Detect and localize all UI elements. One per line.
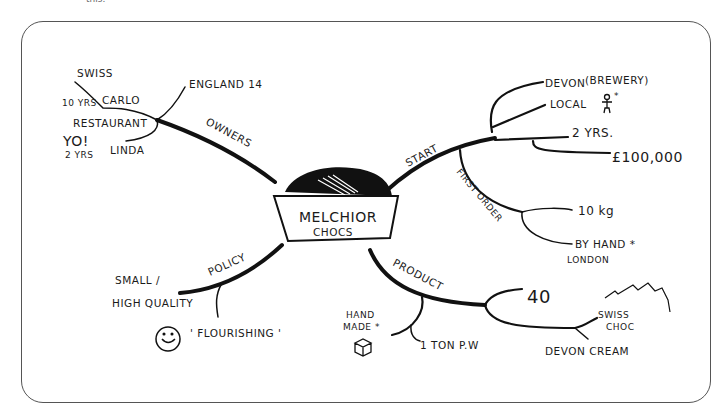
node-1-ton: 1 TON P.W <box>420 339 479 351</box>
node-40: 40 <box>527 286 551 307</box>
node-high-quality: HIGH QUALITY <box>112 297 193 309</box>
node-swiss-choc-1: SWISS <box>598 310 629 320</box>
mind-map: MELCHIOR CHOCS OWNERS ENGLAND 14 SWISS C… <box>0 0 714 415</box>
node-money: £100,000 <box>612 149 683 165</box>
center-node: MELCHIOR CHOCS <box>274 167 398 241</box>
person-icon <box>602 95 612 114</box>
node-local: LOCAL <box>550 98 587 110</box>
node-2yrs: 2 YRS. <box>572 126 614 140</box>
node-devon: DEVON <box>545 77 585 89</box>
node-swiss-choc-2: CHOC <box>606 322 634 332</box>
branch-policy: POLICY SMALL / HIGH QUALITY ' FLOURISHIN… <box>112 245 282 351</box>
smiley-face-icon <box>156 327 180 351</box>
local-asterisk: * <box>614 91 619 101</box>
node-yo: YO! <box>62 133 89 149</box>
node-by-hand: BY HAND * <box>575 238 636 250</box>
node-restaurant: RESTAURANT <box>73 117 147 129</box>
branch-product: PRODUCT 40 SWISS CHOC DEVON CREAM 1 TON … <box>343 250 670 357</box>
center-title: MELCHIOR <box>299 209 377 225</box>
node-carlo: CARLO <box>102 94 140 106</box>
mountains-icon <box>605 283 670 312</box>
product-label: PRODUCT <box>391 256 445 292</box>
node-swiss: SWISS <box>77 67 113 79</box>
node-made: MADE * <box>343 322 380 332</box>
branch-first-order: FIRST ORDER 10 kg BY HAND * LONDON <box>454 150 635 265</box>
first-order-label: FIRST ORDER <box>454 167 504 224</box>
branch-start: START DEVON (BREWERY) LOCAL * 2 YRS. £10… <box>385 74 683 192</box>
node-10kg: 10 kg <box>578 204 614 218</box>
node-brewery: (BREWERY) <box>585 74 649 86</box>
node-devon-cream: DEVON CREAM <box>545 345 629 357</box>
node-hand: HAND <box>346 310 375 320</box>
node-linda-years: 2 YRS <box>65 150 94 160</box>
node-small: SMALL / <box>115 274 160 286</box>
node-linda: LINDA <box>110 144 145 156</box>
box-icon <box>355 339 371 356</box>
node-flourishing: ' FLOURISHING ' <box>190 327 281 339</box>
node-england: ENGLAND 14 <box>189 78 263 90</box>
node-carlo-years: 10 YRS <box>62 98 97 108</box>
branch-owners: OWNERS ENGLAND 14 SWISS CARLO 10 YRS RES… <box>62 67 275 182</box>
node-london: LONDON <box>567 255 609 265</box>
center-subtitle: CHOCS <box>313 226 353 238</box>
